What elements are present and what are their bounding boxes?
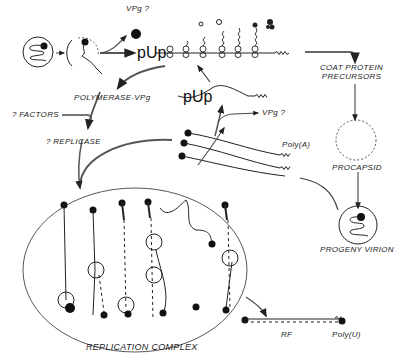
pup-second-label: pUp: [183, 88, 212, 106]
replication-cycle-diagram: [0, 0, 416, 364]
factors-arrow: [62, 115, 91, 120]
replicase-to-complex-arrow: [80, 140, 172, 185]
polysome-mrna: [156, 19, 289, 58]
polymerase-vpg-label: POLYMERASE-VPg: [74, 93, 150, 102]
vpg-dot-top: [131, 29, 141, 39]
replicase-label: ? REPLICASE: [46, 137, 101, 146]
progeny-virion-icon: [339, 206, 377, 244]
coat-protein-line2: PRECURSORS: [320, 72, 383, 81]
replicative-intermediates: [58, 199, 238, 321]
to-virion-arrow: [300, 178, 338, 210]
vpg-mid-label: VPg ?: [262, 108, 285, 117]
progeny-virion-label: PROGENY VIRION: [320, 245, 394, 254]
replication-complex-boundary: [23, 188, 247, 352]
vpg-top-label: VPg ?: [126, 4, 149, 13]
to-coat-protein-arrow: [305, 52, 355, 62]
factors-label: ? FACTORS: [12, 110, 59, 119]
to-polymerase-arrow: [118, 66, 165, 88]
rf-label: RF: [281, 330, 292, 339]
vpg-release-arrow: [100, 36, 126, 53]
coat-protein-precursors-label: COAT PROTEIN PRECURSORS: [320, 63, 383, 81]
uncoating-genome-icon: [67, 38, 102, 74]
replicative-form: [242, 317, 346, 325]
infecting-virion-icon: [23, 37, 53, 67]
released-plus-strands: [179, 130, 291, 177]
procapsid-icon: [336, 120, 376, 160]
to-polysome-arrow: [198, 66, 210, 82]
replication-complex-label: REPLICATION COMPLEX: [86, 342, 198, 352]
procapsid-label: PROCAPSID: [332, 163, 382, 172]
vpg-mid-arrow: [218, 113, 258, 122]
poly-a-label: Poly(A): [282, 140, 310, 149]
pup-main-label: pUp: [137, 44, 166, 62]
poly-u-label: Poly(U): [332, 330, 361, 339]
coat-protein-line1: COAT PROTEIN: [320, 63, 383, 72]
to-rf-arrow: [246, 297, 266, 316]
